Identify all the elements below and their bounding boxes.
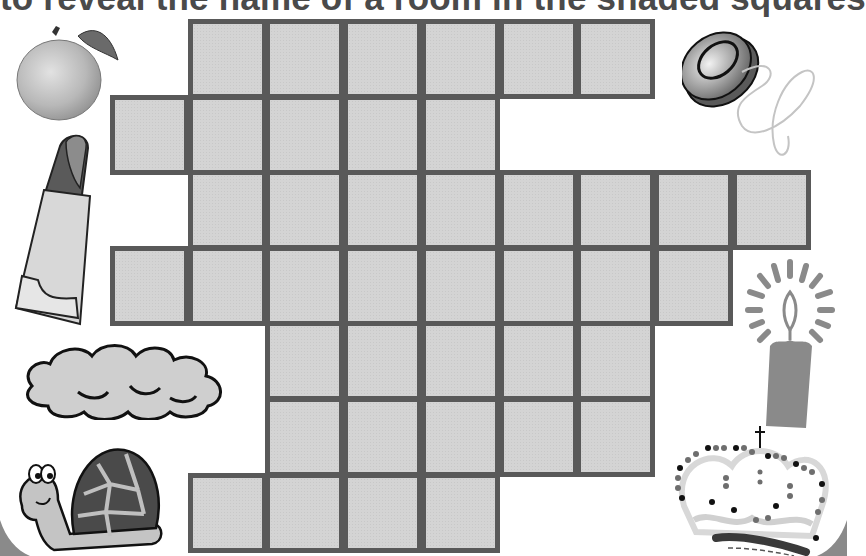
grid-cell-r4-c4[interactable] (343, 246, 422, 326)
grid-cell-r5-c7[interactable] (576, 321, 655, 401)
grid-cell-r4-c5[interactable] (421, 246, 500, 326)
grid-cell-r6-c5[interactable] (421, 397, 500, 477)
page-corner-left (0, 520, 30, 556)
crown-icon (672, 426, 832, 556)
grid-cell-r3-c4[interactable] (343, 170, 422, 250)
candle-icon (740, 258, 840, 428)
grid-cell-r5-c4[interactable] (343, 321, 422, 401)
grid-cell-r3-c7[interactable] (576, 170, 655, 250)
grid-cell-r2-c4[interactable] (343, 95, 422, 175)
grid-cell-r7-c2[interactable] (188, 473, 267, 553)
grid-cell-r6-c7[interactable] (576, 397, 655, 477)
grid-cell-r3-c3[interactable] (265, 170, 344, 250)
grid-cell-r3-c9[interactable] (732, 170, 811, 250)
grid-cell-r5-c5[interactable] (421, 321, 500, 401)
yoyo-icon (682, 16, 847, 166)
grid-cell-r3-c6[interactable] (499, 170, 578, 250)
grid-cell-r1-c4[interactable] (343, 19, 422, 99)
grid-cell-r7-c3[interactable] (265, 473, 344, 553)
grid-cell-r6-c3[interactable] (265, 397, 344, 477)
page-corner-right (817, 520, 847, 556)
grid-cell-r1-c3[interactable] (265, 19, 344, 99)
grid-cell-r4-c3[interactable] (265, 246, 344, 326)
grid-cell-r3-c5[interactable] (421, 170, 500, 250)
lipstick-icon (8, 128, 94, 328)
grid-cell-r1-c2[interactable] (188, 19, 267, 99)
grid-cell-r3-c2[interactable] (188, 170, 267, 250)
grid-cell-r7-c4[interactable] (343, 473, 422, 553)
grid-cell-r6-c4[interactable] (343, 397, 422, 477)
grid-cell-r5-c3[interactable] (265, 321, 344, 401)
tortoise-icon (14, 444, 166, 556)
grid-cell-r4-c7[interactable] (576, 246, 655, 326)
peach-icon (14, 24, 124, 124)
grid-cell-r1-c6[interactable] (499, 19, 578, 99)
grid-cell-r7-c5[interactable] (421, 473, 500, 553)
cloud-icon (20, 340, 230, 420)
grid-cell-r1-c7[interactable] (576, 19, 655, 99)
grid-cell-r5-c6[interactable] (499, 321, 578, 401)
grid-cell-r2-c2[interactable] (188, 95, 267, 175)
grid-cell-r4-c6[interactable] (499, 246, 578, 326)
grid-cell-r3-c8[interactable] (654, 170, 733, 250)
grid-cell-r4-c1[interactable] (110, 246, 189, 326)
grid-cell-r4-c8[interactable] (654, 246, 733, 326)
grid-cell-r4-c2[interactable] (188, 246, 267, 326)
grid-cell-r6-c6[interactable] (499, 397, 578, 477)
grid-cell-r2-c3[interactable] (265, 95, 344, 175)
grid-cell-r1-c5[interactable] (421, 19, 500, 99)
grid-cell-r2-c5[interactable] (421, 95, 500, 175)
